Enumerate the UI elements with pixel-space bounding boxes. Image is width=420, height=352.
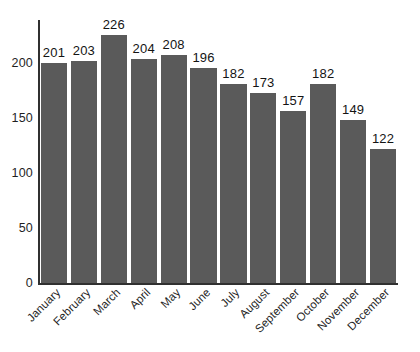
bar-group[interactable] [280, 20, 306, 283]
bar-group[interactable] [370, 20, 396, 283]
bar[interactable] [220, 84, 246, 283]
bar-group[interactable] [310, 20, 336, 283]
y-tick-label: 50 [1, 222, 33, 235]
bar[interactable] [101, 35, 127, 283]
bar[interactable] [71, 61, 97, 283]
bar-group[interactable] [131, 20, 157, 283]
y-tick-label: 200 [1, 57, 33, 70]
bar[interactable] [190, 68, 216, 283]
bar-value-label: 122 [360, 132, 406, 145]
bar[interactable] [41, 63, 67, 283]
bar[interactable] [370, 149, 396, 283]
bar-group[interactable] [340, 20, 366, 283]
x-axis-tick-labels: JanuaryFebruaryMarchAprilMayJuneJulyAugu… [39, 286, 420, 352]
x-axis-line [38, 283, 398, 285]
y-axis-tick-labels: 050100150200 [0, 0, 33, 352]
bar[interactable] [161, 55, 187, 283]
bar-group[interactable] [101, 20, 127, 283]
y-tick-label: 100 [1, 167, 33, 180]
y-tick-label: 0 [1, 277, 33, 290]
plot-area: 201203226204208196182173157182149122 [39, 20, 398, 283]
bar[interactable] [250, 93, 276, 283]
bar[interactable] [131, 59, 157, 283]
bar-group[interactable] [71, 20, 97, 283]
y-tick-label: 150 [1, 112, 33, 125]
bar-group[interactable] [250, 20, 276, 283]
bar-chart: 050100150200 201203226204208196182173157… [0, 0, 420, 352]
bar[interactable] [280, 111, 306, 283]
bar-group[interactable] [220, 20, 246, 283]
